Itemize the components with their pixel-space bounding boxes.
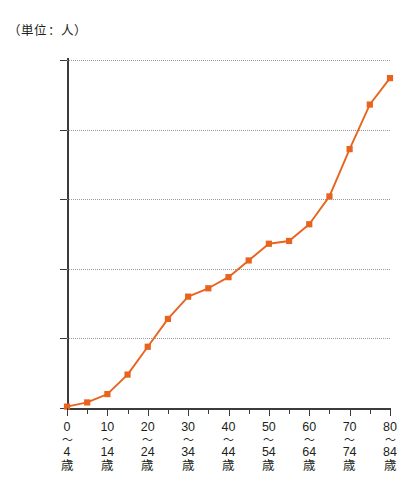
x-label-unit-sai: 歳	[181, 460, 195, 474]
x-label-lower-age: 0	[61, 421, 74, 435]
x-axis-tick	[229, 408, 230, 416]
x-label-unit-sai: 歳	[302, 460, 316, 474]
x-label-upper-age: 44	[222, 446, 236, 460]
y-axis-tick	[60, 338, 67, 339]
x-axis-tick	[188, 408, 189, 416]
plot-area	[67, 60, 390, 408]
x-axis-tick	[148, 408, 149, 416]
x-label-upper-age: 14	[100, 446, 114, 460]
x-axis-tick	[329, 408, 330, 414]
x-label-lower-age: 40	[222, 421, 236, 435]
gridline-y	[67, 269, 390, 270]
y-axis-tick	[60, 269, 67, 270]
x-axis-tick	[208, 408, 209, 414]
x-label-upper-age: 74	[343, 446, 357, 460]
x-label-upper-age: 54	[262, 446, 276, 460]
x-label-unit-sai: 歳	[383, 460, 397, 474]
x-label-unit-sai: 歳	[343, 460, 357, 474]
x-label-unit-sai: 歳	[100, 460, 114, 474]
x-axis-tick	[107, 408, 108, 416]
x-label-upper-age: 64	[302, 446, 316, 460]
gridline-y	[67, 199, 390, 200]
x-label-upper-age: 24	[141, 446, 155, 460]
x-label-unit-sai: 歳	[141, 460, 155, 474]
x-axis-label: 80〜84歳	[383, 421, 397, 473]
x-label-lower-age: 60	[302, 421, 316, 435]
y-axis-tick	[60, 60, 67, 61]
x-axis-tick	[350, 408, 351, 416]
x-axis-label: 50〜54歳	[262, 421, 276, 473]
x-label-lower-age: 20	[141, 421, 155, 435]
x-axis-label: 20〜24歳	[141, 421, 155, 473]
x-label-unit-sai: 歳	[262, 460, 276, 474]
x-axis-tick	[249, 408, 250, 414]
x-axis-tick	[269, 408, 270, 416]
gridline-y	[67, 60, 390, 61]
x-axis-tick	[309, 408, 310, 416]
x-label-unit-sai: 歳	[222, 460, 236, 474]
x-label-lower-age: 30	[181, 421, 195, 435]
x-axis-label: 40〜44歳	[222, 421, 236, 473]
x-axis-tick	[168, 408, 169, 414]
gridline-y	[67, 130, 390, 131]
x-axis-tick	[390, 408, 391, 416]
gridline-y	[67, 338, 390, 339]
x-axis-label: 0〜4歳	[61, 421, 74, 473]
x-axis-tick	[128, 408, 129, 414]
x-axis-label: 30〜34歳	[181, 421, 195, 473]
x-label-upper-age: 4	[61, 446, 74, 460]
x-axis-tick	[289, 408, 290, 414]
x-axis-label: 10〜14歳	[100, 421, 114, 473]
x-axis-tick	[67, 408, 68, 416]
x-label-upper-age: 84	[383, 446, 397, 460]
x-label-upper-age: 34	[181, 446, 195, 460]
y-axis-tick	[60, 199, 67, 200]
y-axis-tick	[60, 130, 67, 131]
unit-caption: （単位：人）	[8, 20, 87, 39]
x-axis-label: 70〜74歳	[343, 421, 357, 473]
x-axis-label: 60〜64歳	[302, 421, 316, 473]
x-label-lower-age: 50	[262, 421, 276, 435]
x-axis-labels: 0〜4歳10〜14歳20〜24歳30〜34歳40〜44歳50〜54歳60〜64歳…	[0, 408, 412, 494]
x-label-lower-age: 70	[343, 421, 357, 435]
x-axis-tick	[370, 408, 371, 414]
x-label-unit-sai: 歳	[61, 460, 74, 474]
x-label-lower-age: 10	[100, 421, 114, 435]
chart-container: （単位：人） 0501001502002500〜4歳10〜14歳20〜24歳30…	[0, 0, 412, 494]
x-label-lower-age: 80	[383, 421, 397, 435]
x-axis-tick	[87, 408, 88, 414]
